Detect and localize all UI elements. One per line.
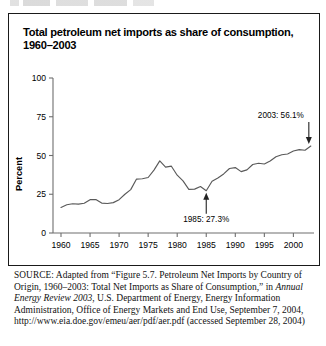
cropped-header-sliver <box>10 0 160 6</box>
figure-box: Total petroleum net imports as share of … <box>8 13 320 266</box>
source-note: SOURCE: Adapted from “Figure 5.7. Petrol… <box>14 270 314 328</box>
x-tick-label: 1985 <box>197 240 216 250</box>
line-chart-svg: Percent 0255075100 196019651970197519801… <box>9 14 321 267</box>
annotation-1985-label: 1985: 27.3% <box>183 215 229 224</box>
x-tick-label: 1990 <box>226 240 245 250</box>
y-axis-ticks: 0255075100 <box>32 73 53 238</box>
plot-area: Percent 0255075100 196019651970197519801… <box>9 14 321 267</box>
x-axis-ticks: 196019651970197519801985199019952000 <box>51 233 303 250</box>
x-tick-label: 1995 <box>255 240 274 250</box>
y-tick-label: 75 <box>36 112 46 122</box>
x-tick-label: 2000 <box>284 240 303 250</box>
x-tick-label: 1960 <box>51 240 70 250</box>
y-tick-label: 100 <box>32 73 47 83</box>
x-tick-label: 1980 <box>168 240 187 250</box>
x-tick-label: 1970 <box>110 240 129 250</box>
annotation-2003-label: 2003: 56.1% <box>258 111 304 120</box>
y-tick-label: 25 <box>36 189 46 199</box>
y-axis-label: Percent <box>14 157 24 191</box>
annotation-2003-arrow-icon <box>306 122 312 144</box>
source-note-label: SOURCE: <box>14 270 54 280</box>
annotation-1985-arrow-icon <box>203 193 209 214</box>
x-tick-label: 1975 <box>139 240 158 250</box>
source-note-part1: Adapted from “Figure 5.7. Petroleum Net … <box>14 270 302 292</box>
y-tick-label: 0 <box>41 228 46 238</box>
y-tick-label: 50 <box>36 151 46 161</box>
data-series-line <box>61 146 311 207</box>
x-tick-label: 1965 <box>80 240 99 250</box>
